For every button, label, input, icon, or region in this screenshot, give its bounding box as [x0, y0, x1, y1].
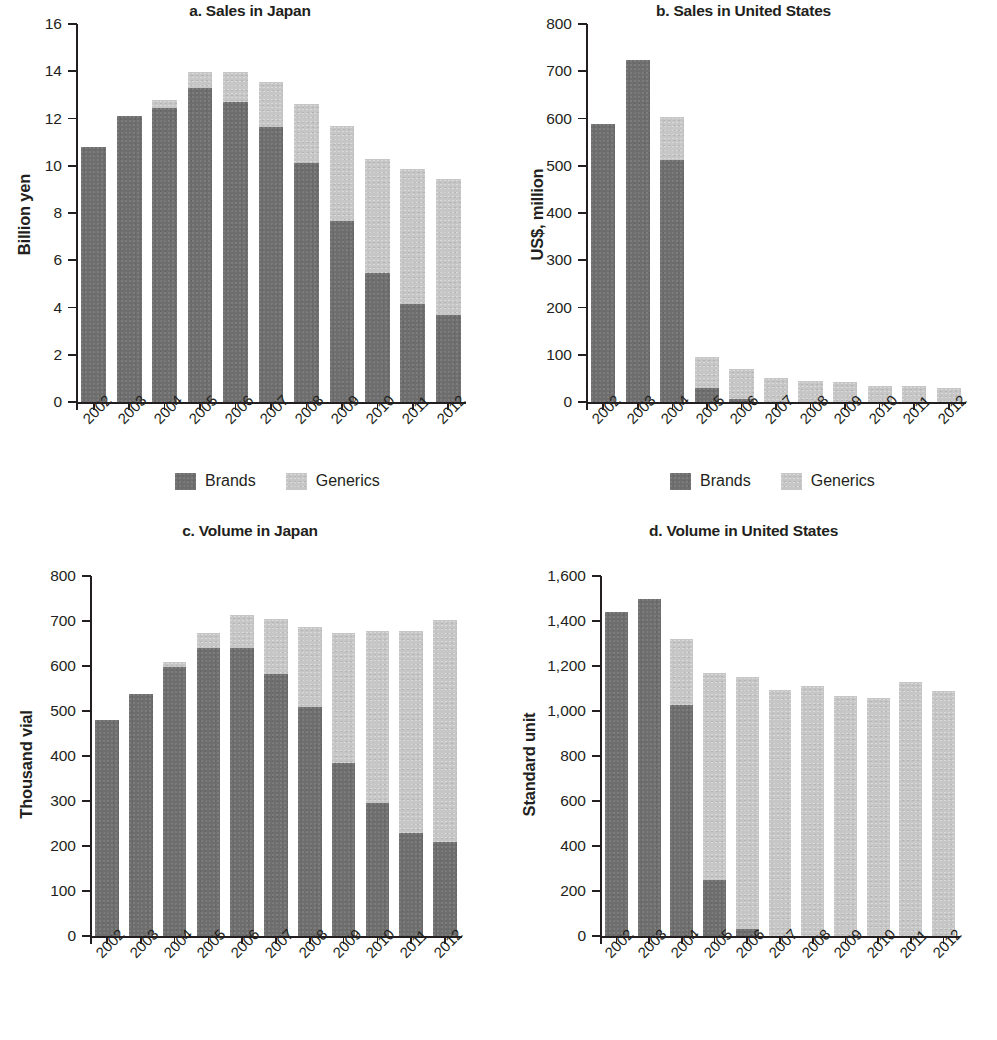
bar-segment-brands[interactable] [433, 842, 457, 937]
bar-segment-brands[interactable] [332, 763, 356, 936]
bar-segment-brands[interactable] [660, 160, 684, 402]
bar-segment-brands[interactable] [366, 803, 390, 936]
bar-segment-generics[interactable] [436, 179, 461, 315]
y-tick-mark [68, 23, 77, 25]
bar-segment-brands[interactable] [223, 102, 248, 402]
bar-column[interactable] [366, 631, 390, 936]
bar-segment-generics[interactable] [264, 619, 288, 674]
bar-column[interactable] [433, 620, 457, 936]
bar-column[interactable] [899, 682, 922, 936]
bar-segment-generics[interactable] [294, 104, 319, 163]
bar-segment-generics[interactable] [298, 627, 322, 707]
bar-segment-brands[interactable] [152, 108, 177, 402]
bar-segment-brands[interactable] [259, 127, 284, 402]
panel-d-volume-in-united-states: d. Volume in United States Standard unit… [500, 520, 997, 1040]
bar-segment-generics[interactable] [801, 686, 824, 936]
bar-segment-brands[interactable] [117, 116, 142, 402]
bar-column[interactable] [197, 633, 221, 936]
bar-column[interactable] [163, 662, 187, 936]
bar-column[interactable] [400, 169, 425, 402]
bar-segment-brands[interactable] [670, 705, 693, 936]
bar-segment-generics[interactable] [769, 690, 792, 936]
bar-segment-generics[interactable] [400, 169, 425, 304]
brands-swatch-icon [175, 473, 196, 490]
bar-segment-brands[interactable] [605, 612, 628, 936]
bar-column[interactable] [152, 100, 177, 402]
panel-c-y-axis-label: Thousand vial [17, 672, 36, 857]
bar-segment-brands[interactable] [638, 599, 661, 937]
bar-segment-brands[interactable] [626, 60, 650, 402]
bar-column[interactable] [638, 599, 661, 937]
bar-column[interactable] [117, 116, 142, 402]
bar-segment-brands[interactable] [436, 315, 461, 402]
bar-column[interactable] [332, 633, 356, 936]
bar-segment-generics[interactable] [867, 698, 890, 937]
bar-segment-brands[interactable] [95, 720, 119, 936]
bar-segment-generics[interactable] [163, 662, 187, 667]
bar-column[interactable] [605, 612, 628, 936]
bar-segment-generics[interactable] [152, 100, 177, 108]
bar-segment-brands[interactable] [129, 694, 153, 936]
bar-column[interactable] [365, 159, 390, 402]
bar-segment-brands[interactable] [365, 273, 390, 402]
bar-segment-brands[interactable] [399, 833, 423, 936]
bar-column[interactable] [660, 117, 684, 402]
bar-column[interactable] [834, 696, 857, 936]
bar-segment-brands[interactable] [298, 707, 322, 936]
bar-segment-generics[interactable] [230, 615, 254, 648]
bar-segment-brands[interactable] [591, 124, 615, 402]
bar-column[interactable] [736, 677, 759, 936]
bar-segment-generics[interactable] [834, 696, 857, 936]
bar-column[interactable] [670, 639, 693, 936]
bar-segment-generics[interactable] [188, 72, 213, 87]
bar-segment-brands[interactable] [188, 88, 213, 402]
bar-segment-generics[interactable] [197, 633, 221, 648]
bar-column[interactable] [591, 124, 615, 402]
bar-column[interactable] [867, 698, 890, 937]
bar-segment-generics[interactable] [259, 82, 284, 127]
bar-column[interactable] [81, 147, 106, 402]
bar-segment-generics[interactable] [330, 126, 355, 222]
bar-segment-generics[interactable] [703, 673, 726, 880]
bar-column[interactable] [264, 619, 288, 936]
bar-column[interactable] [626, 60, 650, 402]
bar-column[interactable] [703, 673, 726, 936]
bar-segment-generics[interactable] [433, 620, 457, 841]
bar-segment-generics[interactable] [932, 691, 955, 936]
bar-column[interactable] [769, 690, 792, 936]
bar-column[interactable] [188, 72, 213, 402]
bar-segment-brands[interactable] [163, 667, 187, 936]
bar-segment-generics[interactable] [670, 639, 693, 705]
bar-segment-generics[interactable] [332, 633, 356, 763]
bar-column[interactable] [95, 720, 119, 936]
bar-column[interactable] [436, 179, 461, 402]
bar-segment-brands[interactable] [197, 648, 221, 936]
bar-column[interactable] [932, 691, 955, 936]
bar-column[interactable] [223, 72, 248, 402]
bar-column[interactable] [399, 631, 423, 936]
bar-segment-brands[interactable] [81, 147, 106, 402]
bar-column[interactable] [801, 686, 824, 936]
bar-segment-generics[interactable] [899, 682, 922, 936]
y-tick-mark [82, 575, 91, 577]
bar-segment-generics[interactable] [366, 631, 390, 803]
bar-segment-brands[interactable] [264, 674, 288, 936]
bar-segment-brands[interactable] [330, 221, 355, 402]
y-tick-mark [592, 710, 601, 712]
bar-segment-generics[interactable] [399, 631, 423, 834]
y-tick-label: 12 [45, 110, 62, 128]
bar-column[interactable] [129, 694, 153, 936]
bar-column[interactable] [294, 104, 319, 402]
bar-column[interactable] [230, 615, 254, 936]
bar-column[interactable] [298, 627, 322, 936]
bar-segment-generics[interactable] [223, 72, 248, 102]
bar-segment-brands[interactable] [294, 163, 319, 402]
bar-segment-generics[interactable] [695, 357, 719, 388]
bar-segment-generics[interactable] [736, 677, 759, 929]
bar-column[interactable] [330, 126, 355, 402]
bar-column[interactable] [259, 82, 284, 402]
bar-segment-brands[interactable] [230, 648, 254, 936]
bar-segment-generics[interactable] [660, 117, 684, 160]
bar-segment-generics[interactable] [365, 159, 390, 274]
bar-segment-brands[interactable] [400, 304, 425, 402]
